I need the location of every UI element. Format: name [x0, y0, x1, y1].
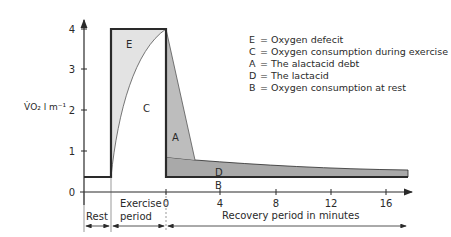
region-label-C: C — [143, 103, 150, 114]
svg-text:C: C — [249, 46, 256, 57]
y-tick-2: 2 — [69, 105, 75, 116]
region-label-B: B — [215, 180, 222, 191]
svg-text:E: E — [249, 34, 255, 45]
oxygen-debt-diagram: 0 1 2 3 4 V̇O₂ l m⁻¹ 0 4 8 12 16 Rest Ex… — [0, 0, 451, 237]
svg-text:=: = — [260, 82, 268, 93]
legend: E = Oxygen defecit C = Oxygen consumptio… — [249, 34, 448, 93]
svg-text:Oxygen consumption during exer: Oxygen consumption during exercise — [271, 46, 448, 57]
legend-item-C: C = Oxygen consumption during exercise — [249, 46, 448, 57]
svg-text:The lactacid: The lactacid — [270, 70, 329, 81]
exercise-period-label-line2: period — [120, 211, 152, 222]
y-tick-1: 1 — [69, 146, 75, 157]
region-label-D: D — [215, 167, 223, 178]
region-label-E: E — [126, 39, 132, 50]
x-tick-0: 0 — [163, 198, 169, 209]
exercise-period-label-line1: Exercise — [120, 198, 162, 209]
svg-text:=: = — [260, 58, 268, 69]
svg-text:Oxygen consumption at rest: Oxygen consumption at rest — [271, 82, 406, 93]
region-label-A: A — [172, 132, 179, 143]
svg-text:=: = — [260, 70, 268, 81]
y-tick-4: 4 — [69, 24, 75, 35]
legend-item-A: A = The alactacid debt — [249, 58, 360, 69]
alactacid-debt-region — [166, 29, 195, 160]
rest-period-label: Rest — [86, 211, 108, 222]
y-tick-3: 3 — [69, 64, 75, 75]
x-tick-8: 8 — [273, 198, 279, 209]
lactacid-region — [166, 157, 408, 177]
x-tick-16: 16 — [380, 198, 393, 209]
recovery-period-label: Recovery period in minutes — [222, 210, 359, 221]
svg-text:The alactacid debt: The alactacid debt — [270, 58, 360, 69]
x-tick-12: 12 — [325, 198, 338, 209]
x-tick-4: 4 — [217, 198, 223, 209]
y-tick-0: 0 — [69, 187, 75, 198]
y-axis-label: V̇O₂ l m⁻¹ — [24, 101, 67, 112]
legend-item-B: B = Oxygen consumption at rest — [249, 82, 406, 93]
y-axis: 0 1 2 3 4 V̇O₂ l m⁻¹ — [24, 20, 87, 205]
svg-text:B: B — [249, 82, 256, 93]
svg-text:A: A — [249, 58, 256, 69]
svg-text:=: = — [260, 34, 268, 45]
svg-text:Oxygen defecit: Oxygen defecit — [271, 34, 344, 45]
svg-text:=: = — [260, 46, 268, 57]
legend-item-E: E = Oxygen defecit — [249, 34, 344, 45]
svg-text:D: D — [249, 70, 256, 81]
legend-item-D: D = The lactacid — [249, 70, 329, 81]
